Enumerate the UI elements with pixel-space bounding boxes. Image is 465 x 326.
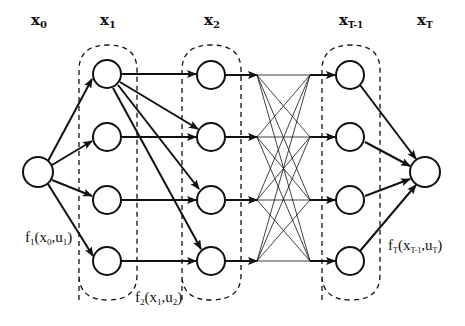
node-x2-4: [197, 247, 225, 275]
node-x2-1: [197, 61, 225, 89]
node-xT-1-3: [336, 186, 364, 214]
node-x1-4: [93, 247, 121, 275]
edges-x1-x2: [113, 74, 201, 261]
node-x2-2: [197, 123, 225, 151]
stage-label-x2: x2: [204, 11, 220, 30]
stage-label-x0: x0: [31, 11, 47, 30]
node-xT-1-4: [336, 247, 364, 275]
stage-label-xT-1: xT-1: [339, 11, 363, 30]
stage-label-x1: x1: [100, 11, 116, 30]
node-x1-1: [93, 60, 121, 88]
node-x1-2: [93, 123, 121, 151]
node-xT: [410, 157, 440, 187]
node-xT-1-2: [336, 123, 364, 151]
stage-label-xT: xT: [417, 11, 433, 30]
transition-label-f1: f1(x0,u1): [25, 229, 72, 247]
transition-label-fT: fT(xT-1,uT): [388, 237, 442, 255]
node-xT-1-1: [336, 61, 364, 89]
stage-graph-diagram: x0 x1 x2 xT-1 xT f1(x0,u1) f2(x1,u2) fT(…: [0, 0, 465, 326]
node-x1-3: [93, 186, 121, 214]
node-x0: [23, 157, 53, 187]
node-x2-3: [197, 186, 225, 214]
transition-label-f2: f2(x1,u2): [135, 289, 182, 307]
edges-xT-1-xT: [360, 85, 416, 251]
edges-full-mesh: [257, 75, 310, 261]
